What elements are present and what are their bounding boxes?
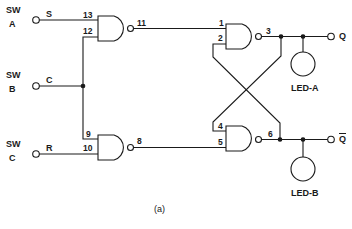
- junction-c: [81, 84, 85, 88]
- pin-8: 8: [137, 137, 142, 146]
- pin-6: 6: [268, 130, 273, 139]
- pin-4: 4: [218, 122, 223, 131]
- wire-c-bus: [83, 37, 98, 139]
- switch-b-label-bottom: B: [9, 85, 16, 94]
- nand-gate-4: [226, 126, 251, 151]
- q-bar-output-label: Q: [339, 135, 346, 144]
- nand-gate-1-bubble: [128, 26, 134, 32]
- switch-c-label-bottom: C: [9, 154, 16, 163]
- q-terminal: [328, 33, 335, 40]
- nand-gate-1: [98, 16, 123, 41]
- switch-a-label-bottom: A: [9, 20, 16, 29]
- nand-gate-4-bubble: [256, 137, 262, 143]
- signal-c-label: C: [46, 76, 53, 85]
- signal-r-label: R: [46, 144, 53, 153]
- q-output-label: Q: [339, 32, 346, 41]
- pin-12: 12: [83, 27, 92, 36]
- nand-gate-2-bubble: [128, 145, 134, 151]
- pin-10: 10: [83, 144, 92, 153]
- switch-a-label-top: SW: [6, 6, 21, 15]
- pin-11: 11: [137, 19, 146, 28]
- nand-gate-2: [98, 135, 123, 160]
- led-b-label: LED-B: [291, 189, 319, 198]
- wire-feedback-qbar-to-2: [213, 44, 280, 140]
- figure-caption: (a): [154, 205, 165, 214]
- signal-s-label: S: [46, 10, 52, 19]
- switch-a-terminal: [33, 17, 40, 24]
- pin-1: 1: [219, 19, 224, 28]
- switch-c-label-top: SW: [6, 140, 21, 149]
- wire-feedback-q-to-4: [213, 37, 281, 132]
- led-a-label: LED-A: [291, 84, 319, 93]
- led-b: [291, 157, 315, 181]
- pin-9: 9: [86, 130, 91, 139]
- pin-13: 13: [83, 11, 92, 20]
- q-bar-terminal: [328, 136, 335, 143]
- pin-5: 5: [218, 138, 223, 147]
- nand-gate-3: [226, 24, 251, 49]
- switch-b-terminal: [33, 83, 40, 90]
- switch-c-terminal: [33, 151, 40, 158]
- switch-b-label-top: SW: [6, 71, 21, 80]
- pin-2: 2: [218, 34, 223, 43]
- nand-gate-3-bubble: [256, 34, 262, 40]
- pin-3: 3: [266, 27, 271, 36]
- led-a: [291, 52, 315, 76]
